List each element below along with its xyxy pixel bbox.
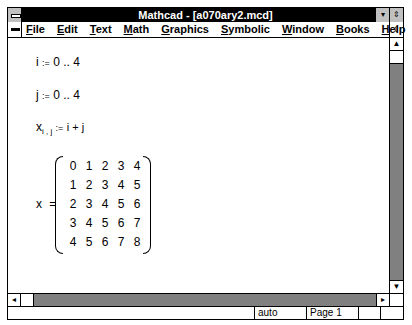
matrix-cell: 0: [65, 159, 81, 178]
scroll-left-button[interactable]: ◂: [8, 294, 21, 306]
menu-symbolic-rest: ymbolic: [228, 23, 270, 35]
menu-bar: File Edit Text Math Graphics Symbolic Wi…: [8, 22, 403, 38]
menu-edit-rest: dit: [64, 23, 77, 35]
matrix-cell: 5: [97, 216, 113, 235]
def-x-expr: i + j: [67, 121, 84, 133]
range-i-var: i: [36, 55, 39, 69]
document-system-menu-button[interactable]: [8, 22, 22, 37]
scroll-right-button[interactable]: ▸: [376, 294, 389, 306]
menu-books[interactable]: Books: [336, 22, 370, 37]
menu-file-rest: ile: [33, 23, 45, 35]
document-restore-icon: ⇕: [393, 25, 400, 34]
horizontal-scroll-thumb[interactable]: [21, 294, 34, 306]
result-matrix[interactable]: 0 1 2 3 4 1 2 3 4 5 2 3 4 5 6 3 4 5 6 7: [55, 156, 151, 254]
scroll-up-icon: ▲: [393, 39, 401, 48]
range-i-op: :=: [42, 58, 50, 68]
matrix-cell: 6: [97, 235, 113, 254]
window-title: Mathcad - [a070ary2.mcd]: [8, 8, 403, 22]
status-cell-empty-2: [380, 307, 405, 319]
matrix-cell: 3: [97, 178, 113, 197]
matrix-cell: 5: [81, 235, 97, 254]
def-x-subscript: i , j: [42, 127, 52, 136]
menu-text-rest: ext: [96, 23, 112, 35]
range-j-definition[interactable]: j := 0 .. 4: [36, 88, 80, 102]
status-calc-mode: auto: [254, 307, 306, 319]
matrix-cell: 5: [113, 197, 129, 216]
menu-math-rest: ath: [133, 23, 150, 35]
scroll-down-icon: ▼: [393, 282, 401, 291]
range-i-definition[interactable]: i := 0 .. 4: [36, 55, 80, 69]
scroll-up-button[interactable]: ▲: [390, 38, 403, 51]
matrix-cell: 2: [97, 159, 113, 178]
menu-math[interactable]: Math: [124, 22, 150, 37]
horizontal-scrollbar[interactable]: ◂ ▸: [8, 293, 389, 306]
menu-books-rest: ooks: [344, 23, 370, 35]
x-definition[interactable]: xi , j := i + j: [36, 120, 84, 136]
range-j-var: j: [36, 88, 39, 102]
matrix-cell: 3: [81, 197, 97, 216]
matrix-cell: 1: [81, 159, 97, 178]
menu-window-rest: indow: [292, 23, 324, 35]
scroll-right-icon: ▸: [381, 295, 385, 304]
matrix-cell: 6: [113, 216, 129, 235]
menu-graphics[interactable]: Graphics: [161, 22, 209, 37]
menu-window[interactable]: Window: [282, 22, 324, 37]
menu-window-accel: W: [282, 23, 292, 35]
matrix-cell: 4: [65, 235, 81, 254]
minimize-button[interactable]: ▾: [375, 8, 389, 22]
restore-icon: ⇕: [393, 10, 400, 19]
restore-button[interactable]: ⇕: [389, 8, 403, 22]
minimize-icon: ▾: [381, 10, 385, 19]
scrollbar-corner: [389, 293, 403, 306]
matrix-cell: 4: [113, 178, 129, 197]
matrix-right-paren: [143, 156, 151, 254]
range-j-op: :=: [42, 91, 50, 101]
range-j-expr: 0 .. 4: [53, 88, 80, 102]
menu-edit[interactable]: Edit: [57, 22, 78, 37]
worksheet-area[interactable]: i := 0 .. 4 j := 0 .. 4 xi , j := i + j …: [8, 38, 389, 293]
document-restore-button[interactable]: ⇕: [389, 22, 403, 37]
scroll-down-button[interactable]: ▼: [390, 280, 403, 293]
matrix-grid: 0 1 2 3 4 1 2 3 4 5 2 3 4 5 6 3 4 5 6 7: [65, 159, 145, 254]
status-bar: auto Page 1: [8, 306, 403, 319]
menu-books-accel: B: [336, 23, 344, 35]
menu-graphics-rest: raphics: [170, 23, 209, 35]
matrix-cell: 4: [81, 216, 97, 235]
matrix-left-paren: [55, 156, 63, 254]
status-page: Page 1: [306, 307, 358, 319]
matrix-cell: 2: [81, 178, 97, 197]
scroll-left-icon: ◂: [12, 295, 16, 304]
menu-graphics-accel: G: [161, 23, 170, 35]
menu-file[interactable]: File: [26, 22, 45, 37]
matrix-cell: 4: [97, 197, 113, 216]
mathcad-window: Mathcad - [a070ary2.mcd] ▾ ⇕ File Edit T…: [7, 7, 404, 320]
def-x-op: :=: [56, 123, 64, 133]
matrix-cell: 7: [113, 235, 129, 254]
title-bar[interactable]: Mathcad - [a070ary2.mcd] ▾ ⇕: [8, 8, 403, 22]
x-result-label: x =: [36, 197, 56, 211]
matrix-cell: 3: [113, 159, 129, 178]
vertical-scrollbar[interactable]: ▲ ▼: [389, 38, 403, 293]
status-cell-empty-1: [358, 307, 380, 319]
vertical-scroll-thumb[interactable]: [390, 51, 403, 64]
document-system-menu-icon: [11, 28, 20, 31]
menu-math-accel: M: [124, 23, 133, 35]
matrix-cell: 2: [65, 197, 81, 216]
range-i-expr: 0 .. 4: [53, 55, 80, 69]
matrix-cell: 3: [65, 216, 81, 235]
menu-text[interactable]: Text: [90, 22, 112, 37]
matrix-cell: 1: [65, 178, 81, 197]
result-var: x: [36, 197, 42, 211]
menu-file-accel: F: [26, 23, 33, 35]
menu-symbolic[interactable]: Symbolic: [221, 22, 270, 37]
